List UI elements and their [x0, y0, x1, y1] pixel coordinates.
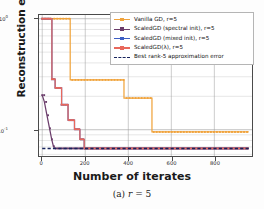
series-marker — [157, 148, 159, 150]
series-marker — [72, 119, 74, 121]
series-marker — [80, 79, 82, 81]
legend-entry[interactable]: ScaledGD(λ), r=5 — [113, 43, 250, 52]
series-marker — [192, 131, 194, 133]
series-marker — [41, 94, 43, 96]
series-marker — [123, 79, 125, 81]
series-marker — [174, 131, 176, 133]
series-marker — [185, 148, 187, 150]
series-marker — [78, 148, 80, 150]
series-marker — [62, 18, 64, 20]
series-marker — [53, 145, 55, 147]
series-marker — [198, 131, 200, 133]
figure-panel: Reconstruction error 100 10-1 0200400600… — [0, 0, 264, 209]
series-marker — [180, 131, 182, 133]
series-marker — [186, 131, 188, 133]
series-marker — [49, 18, 51, 20]
series-marker — [219, 131, 221, 133]
series-marker — [78, 128, 80, 130]
series-marker — [105, 79, 107, 81]
legend-swatch-icon — [113, 43, 131, 52]
figure-caption: (a) r = 5 — [0, 189, 264, 199]
series-marker — [65, 104, 67, 106]
series-marker — [240, 131, 242, 133]
series-marker — [74, 79, 76, 81]
series-marker — [102, 79, 104, 81]
y-tick-label-1e0: 100 — [0, 14, 8, 22]
series-marker — [163, 148, 165, 150]
series-marker — [99, 79, 101, 81]
series-marker — [68, 18, 70, 20]
series-marker — [210, 131, 212, 133]
series-marker — [94, 148, 96, 150]
series-marker — [212, 148, 214, 150]
series-marker — [156, 131, 158, 133]
series-marker — [49, 127, 51, 129]
series-marker — [183, 131, 185, 133]
series-marker — [204, 131, 206, 133]
series-marker — [153, 131, 155, 133]
series-marker — [162, 131, 164, 133]
chart-legend: Vanilla GD, r=5ScaledGD (spectral init),… — [110, 12, 254, 65]
legend-entry[interactable]: ScaledGD (spectral init), r=5 — [113, 24, 250, 33]
series-marker — [177, 131, 179, 133]
y-axis-label: Reconstruction error — [15, 0, 27, 102]
series-marker — [80, 138, 82, 140]
legend-swatch-icon — [113, 34, 131, 43]
x-tick-mark — [85, 157, 86, 161]
series-marker — [189, 131, 191, 133]
series-marker — [231, 131, 233, 133]
series-marker — [237, 131, 239, 133]
series-marker — [207, 131, 209, 133]
series-marker — [246, 131, 248, 133]
series-marker — [63, 104, 65, 106]
series-marker — [136, 148, 138, 150]
legend-entry[interactable]: Vanilla GD, r=5 — [113, 15, 250, 24]
series-marker — [77, 79, 79, 81]
series-marker — [71, 79, 73, 81]
series-marker — [206, 148, 208, 150]
legend-swatch-icon — [113, 53, 131, 62]
series-marker — [132, 97, 134, 99]
series-marker — [45, 18, 47, 20]
series-marker — [234, 131, 236, 133]
series-marker — [171, 131, 173, 133]
series-marker — [74, 128, 76, 130]
series-marker — [114, 79, 116, 81]
series-marker — [228, 131, 230, 133]
series-marker — [47, 114, 49, 116]
caption-equation: = 5 — [135, 189, 151, 199]
series-marker — [57, 87, 59, 89]
series-marker — [99, 148, 101, 150]
series-marker — [120, 79, 122, 81]
series-marker — [227, 148, 229, 150]
series-marker — [135, 97, 137, 99]
caption-prefix: (a) — [113, 189, 125, 199]
series-marker — [121, 148, 123, 150]
legend-entry[interactable]: Best rank-5 approximation error — [113, 53, 250, 62]
series-marker — [68, 119, 70, 121]
legend-label: Vanilla GD, r=5 — [134, 17, 177, 23]
series-marker — [76, 128, 78, 130]
series-marker — [89, 79, 91, 81]
series-marker — [201, 131, 203, 133]
series-marker — [47, 18, 49, 20]
series-marker — [168, 131, 170, 133]
series-marker — [243, 131, 245, 133]
series-marker — [66, 104, 68, 106]
series-marker — [86, 79, 88, 81]
series-marker — [126, 97, 128, 99]
series-marker — [150, 97, 152, 99]
legend-entry[interactable]: ScaledGD (mixed init), r=5 — [113, 34, 250, 43]
series-marker — [53, 78, 55, 80]
series-marker — [233, 148, 235, 150]
series-marker — [51, 138, 53, 140]
series-marker — [92, 79, 94, 81]
legend-label: Best rank-5 approximation error — [134, 54, 224, 60]
series-marker — [213, 131, 215, 133]
series-marker — [41, 18, 43, 20]
series-marker — [96, 79, 98, 81]
x-tick-mark — [41, 157, 42, 161]
series-marker — [55, 87, 57, 89]
series-marker — [138, 97, 140, 99]
series-marker — [147, 97, 149, 99]
